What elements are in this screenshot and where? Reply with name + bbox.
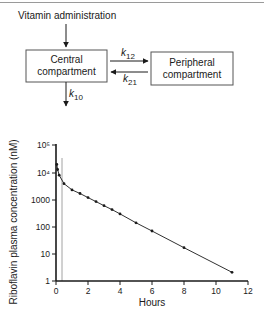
central-box-line1: Central: [50, 54, 82, 65]
y-axis-label: Riboflavin plasma concentration (nM): [8, 139, 19, 304]
svg-text:10⁵: 10⁵: [37, 140, 50, 150]
y-tick-labels: 1 10 100 1000 10⁴ 10⁵: [31, 140, 50, 286]
data-point: [56, 168, 59, 171]
data-point: [103, 204, 106, 207]
data-point: [55, 163, 58, 166]
peripheral-box-line2: compartment: [163, 69, 222, 80]
svg-text:10⁴: 10⁴: [37, 168, 50, 178]
vitamin-administration-label: Vitamin administration: [18, 10, 116, 21]
data-point: [87, 196, 90, 199]
central-box-line2: compartment: [37, 66, 96, 77]
svg-text:1: 1: [45, 276, 50, 286]
data-point: [79, 192, 82, 195]
pk-chart: Riboflavin plasma concentration (nM) Hou…: [8, 139, 253, 308]
k12-label: k12: [121, 47, 135, 61]
data-point: [71, 189, 74, 192]
data-point: [63, 182, 66, 185]
data-points: [55, 163, 233, 274]
svg-text:10: 10: [41, 249, 51, 259]
compartment-diagram: Vitamin administration Central compartme…: [18, 10, 233, 106]
svg-text:2: 2: [86, 286, 91, 296]
svg-text:10: 10: [211, 286, 221, 296]
x-tick-labels: 0 2 4 6 8 10 12: [54, 286, 253, 296]
data-point: [183, 246, 186, 249]
data-point: [135, 221, 138, 224]
k10-label: k10: [69, 88, 83, 102]
k21-label: k21: [123, 73, 137, 87]
svg-text:8: 8: [182, 286, 187, 296]
svg-text:6: 6: [150, 286, 155, 296]
concentration-curve: [57, 164, 232, 272]
svg-text:12: 12: [243, 286, 253, 296]
data-point: [95, 200, 98, 203]
data-point: [111, 208, 114, 211]
data-point: [119, 213, 122, 216]
figure: Vitamin administration Central compartme…: [0, 0, 264, 318]
svg-text:100: 100: [36, 222, 50, 232]
data-point: [151, 230, 154, 233]
x-axis-label: Hours: [139, 297, 166, 308]
peripheral-box-line1: Peripheral: [169, 57, 215, 68]
svg-text:0: 0: [54, 286, 59, 296]
svg-text:4: 4: [118, 286, 123, 296]
data-point: [58, 174, 61, 177]
data-point: [231, 271, 234, 274]
svg-text:1000: 1000: [31, 195, 50, 205]
